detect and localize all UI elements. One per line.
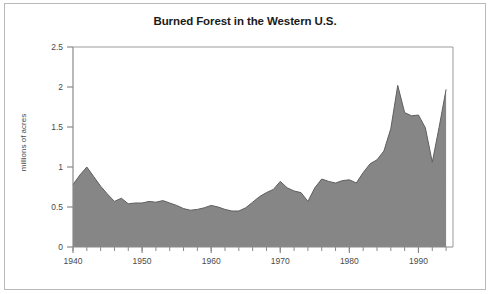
y-tick-label: 0.5 [29,202,63,212]
x-axis-minor-ticks [73,247,446,251]
y-axis-major-ticks [67,47,73,247]
x-tick-label: 1990 [398,256,438,266]
chart-figure: Burned Forest in the Western U.S. millio… [0,0,490,294]
y-tick-label: 2.5 [29,42,63,52]
y-tick-label: 2 [29,82,63,92]
y-tick-label: 0 [29,242,63,252]
x-axis-major-ticks [73,247,418,253]
x-tick-label: 1980 [329,256,369,266]
x-tick-label: 1970 [260,256,300,266]
area-series-group [73,85,446,247]
y-tick-label: 1 [29,162,63,172]
x-tick-label: 1960 [191,256,231,266]
x-tick-label: 1950 [122,256,162,266]
area-series-fill [73,85,446,247]
plot-area [0,0,490,294]
y-tick-label: 1.5 [29,122,63,132]
x-tick-label: 1940 [53,256,93,266]
